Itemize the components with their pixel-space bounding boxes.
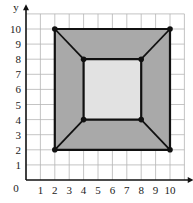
y-axis-arrow-icon (23, 4, 29, 10)
vertex-dot (167, 26, 173, 32)
vertex-dot (81, 56, 87, 62)
vertex-dot (167, 147, 173, 153)
x-tick-label: 5 (95, 184, 101, 196)
x-tick-label: 1 (38, 184, 44, 196)
origin-label: 0 (13, 182, 19, 194)
x-tick-label: 6 (110, 184, 116, 196)
vertex-dot (138, 117, 144, 123)
vertex-dot (138, 56, 144, 62)
y-tick-label: 10 (10, 23, 22, 35)
x-axis-arrow-icon (188, 177, 193, 183)
y-tick-label: 7 (16, 68, 22, 80)
x-tick-label: 7 (124, 184, 130, 196)
y-tick-label: 2 (16, 144, 22, 156)
x-tick-label: 8 (138, 184, 144, 196)
x-tick-label: 9 (153, 184, 159, 196)
coordinate-grid-diagram: 12345678910123456789100xy (0, 0, 193, 203)
vertex-dot (52, 147, 58, 153)
y-tick-label: 1 (16, 159, 22, 171)
y-tick-label: 3 (16, 129, 22, 141)
x-tick-label: 3 (66, 184, 72, 196)
vertex-dot (52, 26, 58, 32)
y-tick-label: 9 (16, 38, 22, 50)
y-tick-label: 8 (16, 53, 22, 65)
x-tick-label: 4 (81, 184, 87, 196)
y-tick-label: 6 (16, 83, 22, 95)
inner-square (84, 59, 142, 119)
y-tick-label: 5 (16, 99, 22, 111)
y-axis-label: y (13, 1, 19, 13)
y-tick-label: 4 (16, 114, 22, 126)
vertex-dot (81, 117, 87, 123)
x-tick-label: 2 (52, 184, 58, 196)
x-tick-label: 10 (165, 184, 177, 196)
